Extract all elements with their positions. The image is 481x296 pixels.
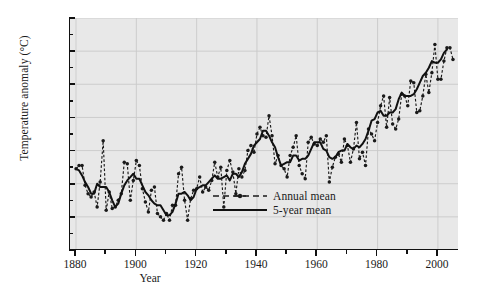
y-tick-minor [69,67,73,68]
y-tick-major [69,117,75,119]
x-tick-major [376,250,378,256]
x-tick-label: 1900 [109,258,161,270]
x-tick-major [74,250,76,256]
x-tick-label: 1940 [230,258,282,270]
y-tick-minor [69,233,73,234]
y-tick-major [69,50,75,52]
x-tick-label: 2000 [411,258,463,270]
x-tick-minor [104,250,106,254]
x-axis-title: Year [120,272,180,284]
x-tick-label: 1880 [49,258,101,270]
y-tick-minor [69,200,73,201]
y-tick-minor [69,133,73,134]
y-axis-title: Temperature anomaly (°C) [18,0,30,203]
chart-figure: Temperature anomaly (°C) − 0.6− 0.4− 0.2… [0,0,481,296]
x-tick-minor [406,250,408,254]
x-tick-label: 1920 [170,258,222,270]
y-tick-minor [69,100,73,101]
legend-label-annual-mean: Annual mean [273,190,336,202]
y-tick-minor [69,34,73,35]
y-tick-major [69,83,75,85]
legend-swatch-solid [212,204,268,216]
x-tick-major [195,250,197,256]
chart-legend: Annual mean 5-year mean [212,189,336,217]
x-tick-label: 1980 [351,258,403,270]
x-tick-major [135,250,137,256]
legend-label-5-year-mean: 5-year mean [273,204,331,216]
x-tick-minor [225,250,227,254]
x-tick-major [315,250,317,256]
x-tick-major [255,250,257,256]
legend-item-5-year-mean: 5-year mean [212,203,336,217]
y-tick-major [69,216,75,218]
y-tick-major [69,183,75,185]
y-tick-major [69,150,75,152]
x-tick-label: 1960 [290,258,342,270]
x-tick-major [436,250,438,256]
x-tick-minor [285,250,287,254]
x-tick-minor [346,250,348,254]
y-tick-major [69,17,75,19]
legend-item-annual-mean: Annual mean [212,189,336,203]
x-tick-minor [165,250,167,254]
y-tick-minor [69,166,73,167]
legend-swatch-dashed [212,190,268,202]
